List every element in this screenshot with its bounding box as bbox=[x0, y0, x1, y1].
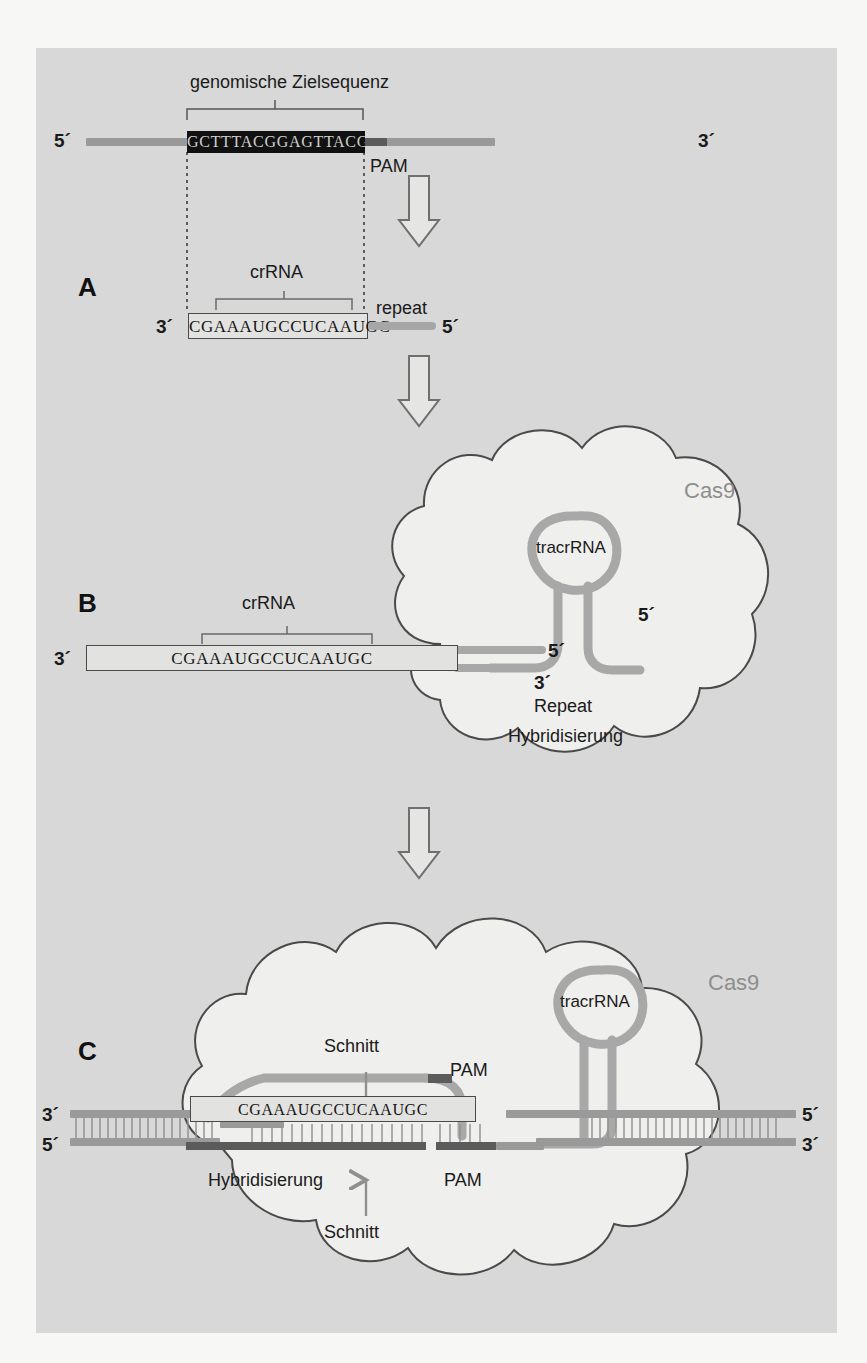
pam-label-a: PAM bbox=[370, 156, 408, 177]
panel-b-crrna-three-prime: 3´ bbox=[54, 648, 71, 670]
panel-b-tracr-five-prime: 5´ bbox=[638, 604, 655, 626]
panel-c-right-five-prime: 5´ bbox=[802, 1104, 819, 1126]
genomic-target-heading: genomische Zielsequenz bbox=[190, 72, 389, 93]
arrow-a-to-b bbox=[399, 356, 439, 426]
cas9-label-c: Cas9 bbox=[708, 970, 759, 996]
crrna-label-a: crRNA bbox=[250, 262, 303, 283]
genomic-strand-right bbox=[387, 138, 495, 146]
pam-label-bottom: PAM bbox=[444, 1170, 482, 1191]
genomic-bottom-strand-right-c bbox=[536, 1138, 796, 1146]
panel-c-left-three-prime: 3´ bbox=[42, 1104, 59, 1126]
panel-a-crrna-bracket bbox=[216, 291, 352, 310]
panel-a-three-prime-right: 3´ bbox=[698, 130, 715, 152]
panel-b-crrna-bracket bbox=[202, 626, 372, 644]
arrow-a-to-crrna bbox=[399, 176, 439, 246]
panel-c-left-five-prime: 5´ bbox=[42, 1134, 59, 1156]
diagram-stage: A genomische Zielsequenz 5´ 3´ GCTTTACGG… bbox=[36, 48, 837, 1333]
genomic-bottom-strand-hybrid-c bbox=[186, 1142, 426, 1150]
arrow-b-to-c bbox=[399, 808, 439, 878]
crrna-label-b: crRNA bbox=[242, 593, 295, 614]
repeat-hybrid-label-line2: Hybridisierung bbox=[508, 726, 623, 747]
repeat-label-a: repeat bbox=[376, 298, 427, 319]
repeat-hybrid-label-line1: Repeat bbox=[534, 696, 592, 717]
panel-b-repeat-three-prime: 3´ bbox=[534, 672, 551, 694]
genomic-strand-left bbox=[86, 138, 188, 146]
schnitt-label-bottom: Schnitt bbox=[324, 1222, 379, 1243]
panel-a-crrna-five-prime: 5´ bbox=[442, 316, 459, 338]
genomic-target-sequence: GCTTTACGGAGTTACG bbox=[187, 131, 365, 153]
pam-segment-a bbox=[365, 138, 387, 146]
section-label-a: A bbox=[78, 272, 97, 303]
crrna-sequence-c: CGAAAUGCCUCAAUGC bbox=[190, 1096, 476, 1122]
panel-a-bracket bbox=[187, 100, 363, 120]
schnitt-label-top: Schnitt bbox=[324, 1036, 379, 1057]
genomic-top-strand-right-c bbox=[506, 1110, 796, 1118]
panel-a-crrna-three-prime: 3´ bbox=[156, 316, 173, 338]
crrna-sequence-b: CGAAAUGCCUCAAUGC bbox=[86, 645, 458, 671]
pam-segment-c-top bbox=[428, 1074, 452, 1083]
panel-a-dotted-guides bbox=[187, 152, 364, 310]
pam-label-top: PAM bbox=[450, 1060, 488, 1081]
cas9-label-b: Cas9 bbox=[684, 478, 735, 504]
panel-c-right-three-prime: 3´ bbox=[802, 1134, 819, 1156]
hybridisierung-label-c: Hybridisierung bbox=[208, 1170, 323, 1191]
pam-segment-c-bottom bbox=[436, 1142, 496, 1150]
section-label-b: B bbox=[78, 588, 97, 619]
crrna-repeat-tail-a bbox=[368, 322, 436, 330]
panel-b-repeat-five-prime: 5´ bbox=[548, 640, 565, 662]
tracrrna-label-b: tracrRNA bbox=[536, 538, 606, 558]
crrna-sequence-a: CGAAAUGCCUCAAUGC bbox=[188, 313, 368, 339]
section-label-c: C bbox=[78, 1036, 97, 1067]
figure-panel: A genomische Zielsequenz 5´ 3´ GCTTTACGG… bbox=[36, 48, 837, 1333]
panel-a-five-prime-left: 5´ bbox=[54, 130, 71, 152]
tracrrna-label-c: tracrRNA bbox=[560, 992, 630, 1012]
